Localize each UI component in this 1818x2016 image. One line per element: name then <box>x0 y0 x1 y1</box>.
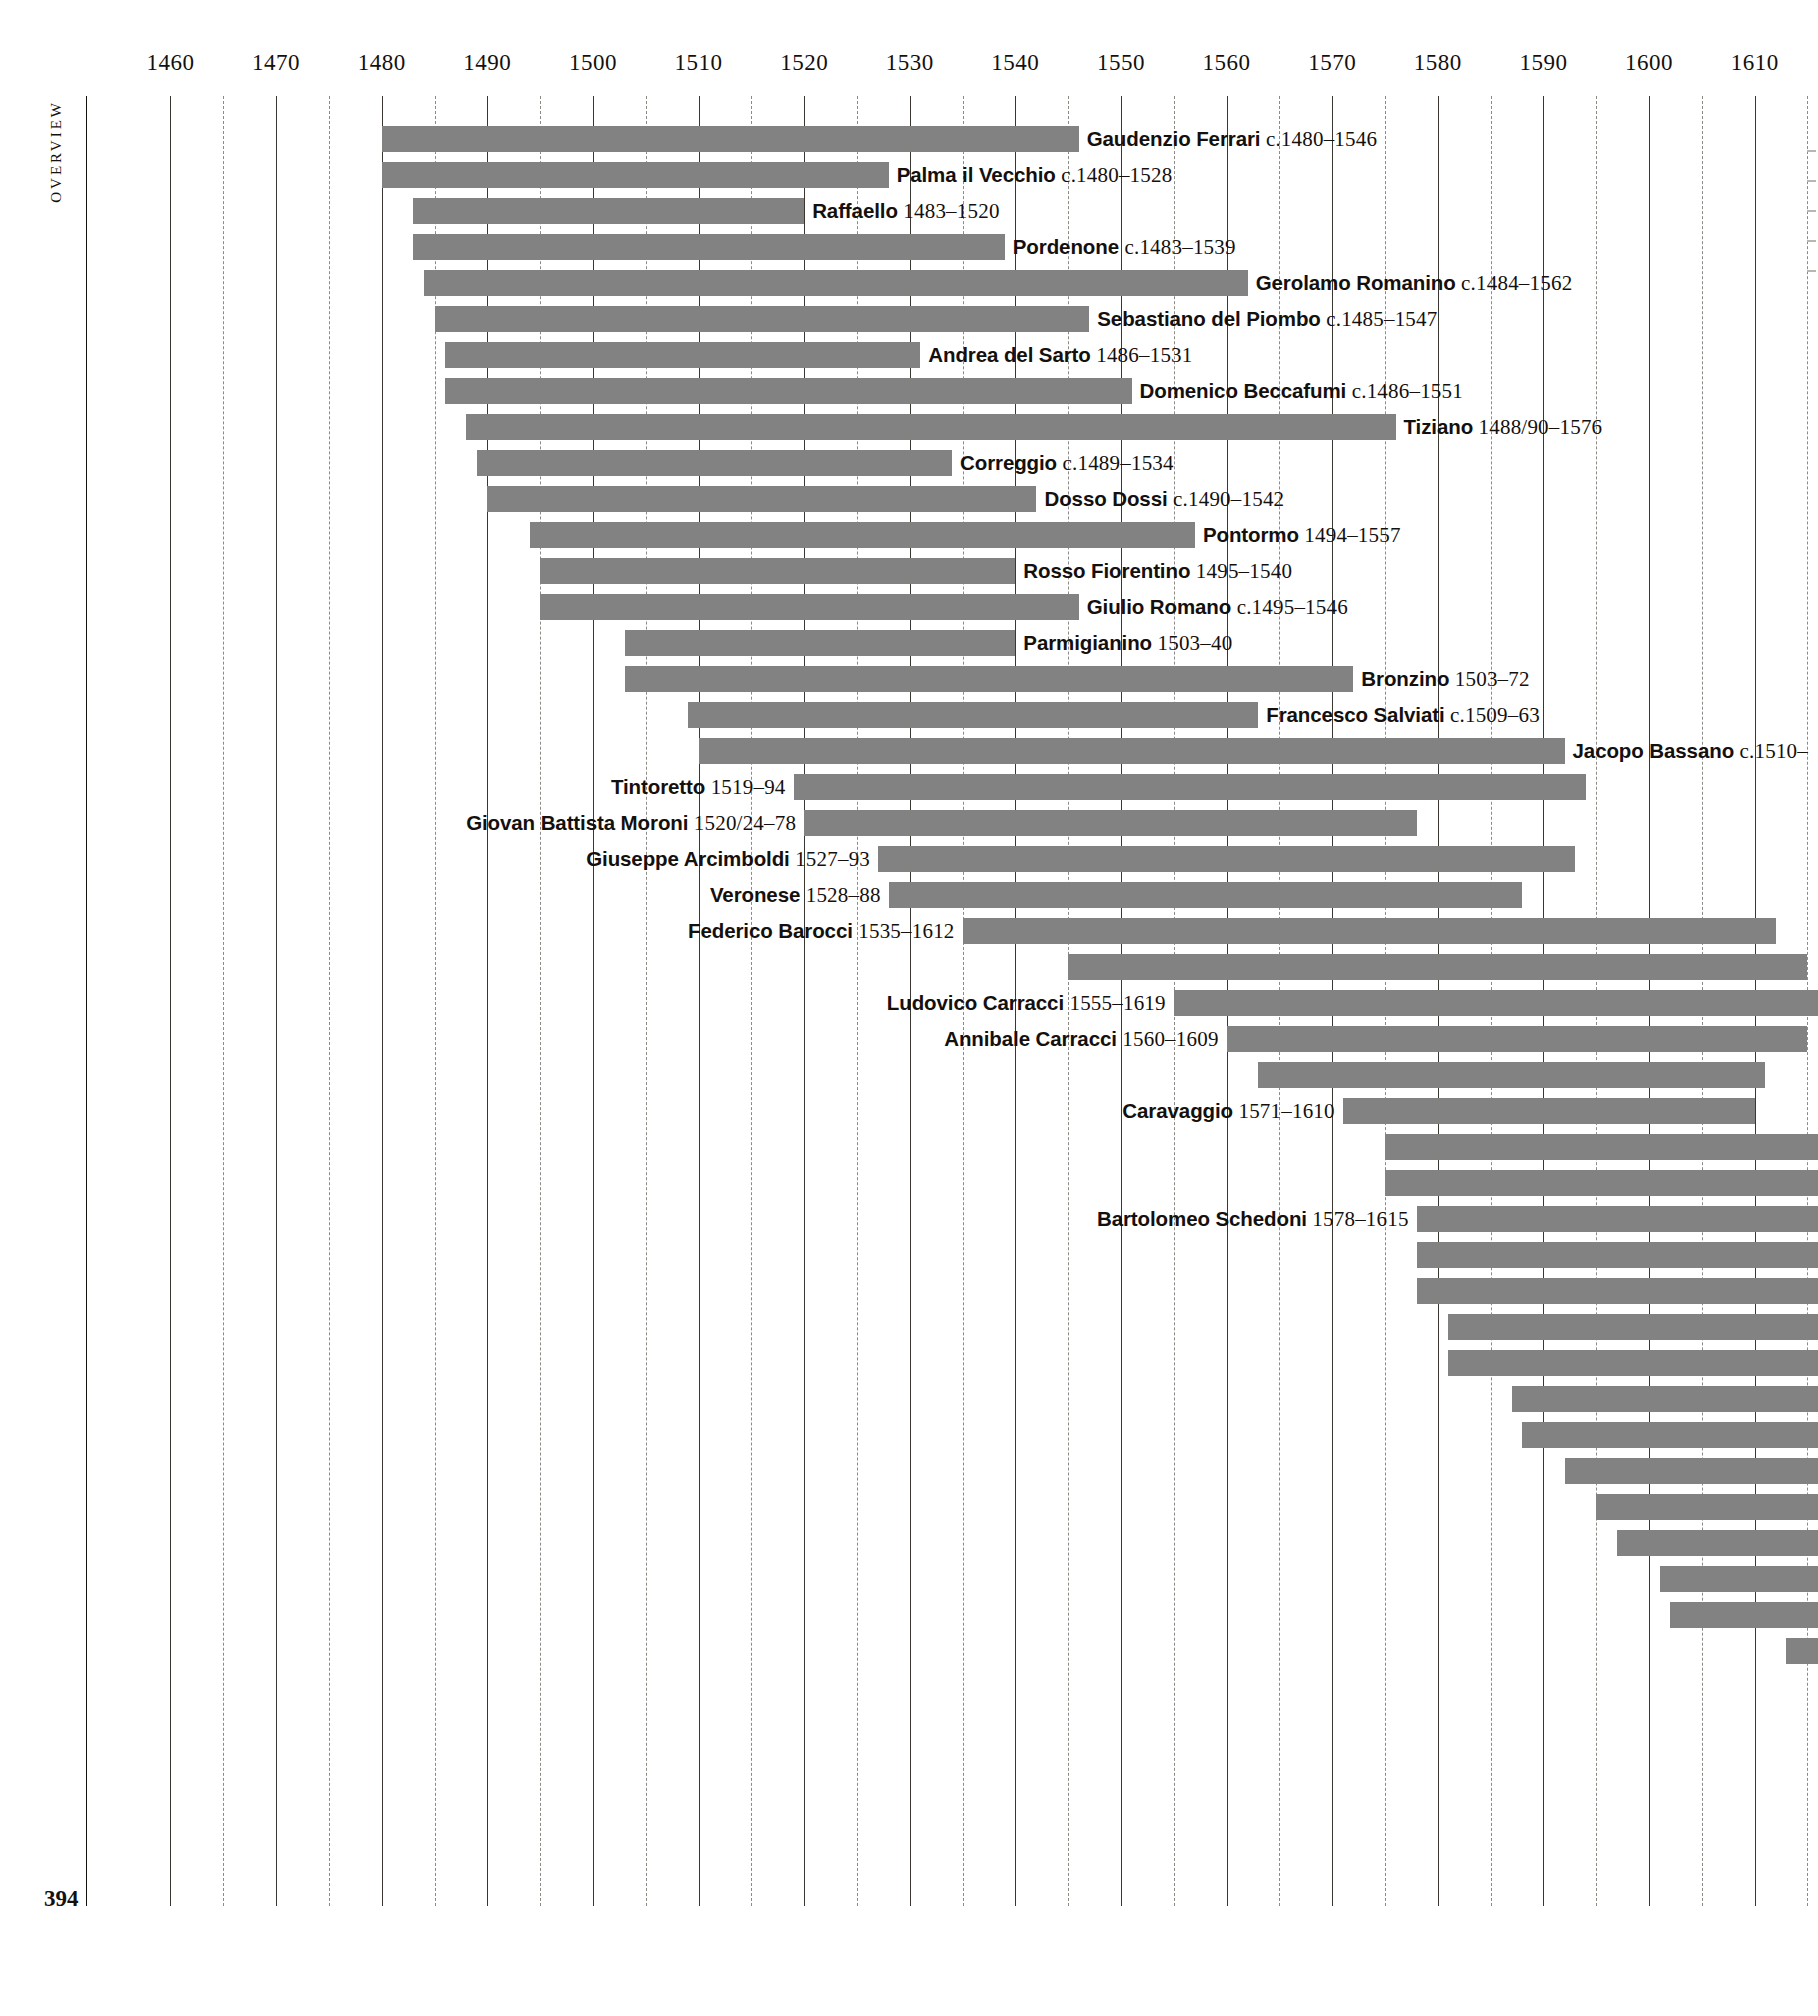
timeline-row <box>0 1381 1818 1417</box>
bar-domenico-beccafumi <box>445 378 1131 404</box>
edge-mark <box>1807 270 1816 272</box>
artist-dates: c.1490–1542 <box>1168 487 1285 511</box>
timeline-row: Tiziano 1488/90–1576 <box>0 409 1818 445</box>
timeline-row: Pontormo 1494–1557 <box>0 517 1818 553</box>
page-number: 394 <box>44 1886 79 1912</box>
bar-pordenone <box>413 234 1004 260</box>
row-label: Bronzino 1503–72 <box>1361 665 1529 693</box>
bar-unlabeled <box>1596 1494 1818 1520</box>
bar-correggio <box>477 450 952 476</box>
artist-name: Annibale Carracci <box>944 1027 1117 1050</box>
row-label: Rosso Fiorentino 1495–1540 <box>1023 557 1292 585</box>
timeline-row: Rosso Fiorentino 1495–1540 <box>0 553 1818 589</box>
artist-name: Andrea del Sarto <box>928 343 1090 366</box>
timeline-row <box>0 1237 1818 1273</box>
row-label: Tintoretto 1519–94 <box>611 773 786 801</box>
timeline-row <box>0 1345 1818 1381</box>
timeline-row <box>0 1129 1818 1165</box>
bar-sebastiano-del-piombo <box>435 306 1090 332</box>
timeline-row: Pordenone c.1483–1539 <box>0 229 1818 265</box>
timeline-row <box>0 1633 1818 1669</box>
artist-name: Francesco Salviati <box>1266 703 1444 726</box>
row-label: Palma il Vecchio c.1480–1528 <box>897 161 1173 189</box>
artist-dates: 1555–1619 <box>1064 991 1166 1015</box>
artist-name: Domenico Beccafumi <box>1140 379 1347 402</box>
timeline-row <box>0 1525 1818 1561</box>
bar-tiziano <box>466 414 1395 440</box>
artist-name: Giuseppe Arcimboldi <box>586 847 790 870</box>
row-label: Jacopo Bassano c.1510– <box>1573 737 1808 765</box>
bar-unlabeled <box>1522 1422 1818 1448</box>
row-label: Andrea del Sarto 1486–1531 <box>928 341 1192 369</box>
artist-name: Veronese <box>710 883 800 906</box>
timeline-row: Giulio Romano c.1495–1546 <box>0 589 1818 625</box>
timeline-page: Overview 1460147014801490150015101520153… <box>0 0 1818 2016</box>
timeline-row <box>0 1597 1818 1633</box>
artist-name: Parmigianino <box>1023 631 1152 654</box>
row-label: Pontormo 1494–1557 <box>1203 521 1401 549</box>
artist-name: Caravaggio <box>1122 1099 1233 1122</box>
timeline-row: Parmigianino 1503–40 <box>0 625 1818 661</box>
timeline-row <box>0 1561 1818 1597</box>
timeline-row: Dosso Dossi c.1490–1542 <box>0 481 1818 517</box>
bar-palma-il-vecchio <box>382 162 889 188</box>
tick-label-1590: 1590 <box>1519 50 1567 76</box>
row-label: Sebastiano del Piombo c.1485–1547 <box>1097 305 1437 333</box>
bar-unlabeled <box>1448 1350 1818 1376</box>
timeline-row: Andrea del Sarto 1486–1531 <box>0 337 1818 373</box>
bar-unlabeled <box>1385 1170 1818 1196</box>
row-label: Correggio c.1489–1534 <box>960 449 1174 477</box>
artist-name: Federico Barocci <box>688 919 853 942</box>
row-label: Gerolamo Romanino c.1484–1562 <box>1256 269 1573 297</box>
row-label: Giovan Battista Moroni 1520/24–78 <box>466 809 796 837</box>
artist-dates: c.1510– <box>1734 739 1808 763</box>
artist-dates: c.1483–1539 <box>1119 235 1236 259</box>
bar-parmigianino <box>625 630 1016 656</box>
row-label: Federico Barocci 1535–1612 <box>688 917 955 945</box>
tick-label-1460: 1460 <box>146 50 194 76</box>
artist-dates: c.1484–1562 <box>1456 271 1573 295</box>
timeline-row: Raffaello 1483–1520 <box>0 193 1818 229</box>
bar-jacopo-bassano <box>699 738 1565 764</box>
artist-dates: c.1480–1546 <box>1260 127 1377 151</box>
timeline-row: Sebastiano del Piombo c.1485–1547 <box>0 301 1818 337</box>
timeline-row: Giovan Battista Moroni 1520/24–78 <box>0 805 1818 841</box>
row-label: Giulio Romano c.1495–1546 <box>1087 593 1348 621</box>
tick-label-1570: 1570 <box>1308 50 1356 76</box>
tick-label-1480: 1480 <box>358 50 406 76</box>
artist-name: Pontormo <box>1203 523 1299 546</box>
artist-dates: 1535–1612 <box>853 919 955 943</box>
edge-mark <box>1807 240 1816 242</box>
bar-unlabeled <box>1417 1242 1818 1268</box>
bar-unlabeled <box>1417 1278 1818 1304</box>
timeline-row <box>0 1309 1818 1345</box>
tick-label-1510: 1510 <box>675 50 723 76</box>
artist-name: Bartolomeo Schedoni <box>1097 1207 1307 1230</box>
artist-dates: 1494–1557 <box>1299 523 1401 547</box>
bar-giovan-battista-moroni <box>804 810 1417 836</box>
row-label: Bartolomeo Schedoni 1578–1615 <box>1097 1205 1409 1233</box>
artist-dates: c.1485–1547 <box>1321 307 1438 331</box>
tick-label-1540: 1540 <box>991 50 1039 76</box>
bar-unlabeled <box>1565 1458 1818 1484</box>
row-label: Domenico Beccafumi c.1486–1551 <box>1140 377 1463 405</box>
artist-dates: 1528–88 <box>800 883 880 907</box>
timeline-row: Ludovico Carracci 1555–1619 <box>0 985 1818 1021</box>
row-label: Parmigianino 1503–40 <box>1023 629 1232 657</box>
row-label: Annibale Carracci 1560–1609 <box>944 1025 1218 1053</box>
timeline-row: Jacopo Bassano c.1510– <box>0 733 1818 769</box>
bar-giulio-romano <box>540 594 1079 620</box>
bar-ludovico-carracci <box>1174 990 1818 1016</box>
row-label: Tiziano 1488/90–1576 <box>1404 413 1603 441</box>
row-label: Giuseppe Arcimboldi 1527–93 <box>586 845 870 873</box>
row-label: Pordenone c.1483–1539 <box>1013 233 1236 261</box>
timeline-row: Francesco Salviati c.1509–63 <box>0 697 1818 733</box>
artist-dates: c.1495–1546 <box>1231 595 1348 619</box>
bar-unlabeled <box>1448 1314 1818 1340</box>
artist-dates: 1486–1531 <box>1091 343 1193 367</box>
bar-unlabeled <box>1786 1638 1818 1664</box>
bar-raffaello <box>413 198 804 224</box>
edge-mark <box>1807 180 1816 182</box>
timeline-row: Tintoretto 1519–94 <box>0 769 1818 805</box>
bar-unlabeled <box>1258 1062 1765 1088</box>
